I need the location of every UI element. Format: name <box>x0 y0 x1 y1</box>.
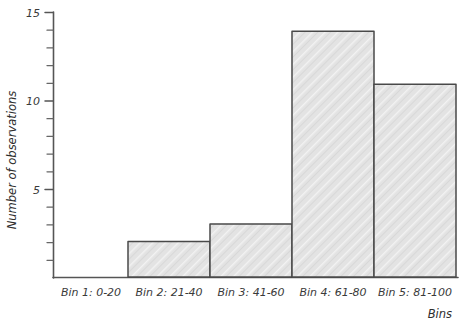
bar-bin-3 <box>210 224 292 277</box>
bar-bin-2 <box>128 242 210 277</box>
x-category-label-bin-5: Bin 5: 81-100 <box>378 286 452 299</box>
y-tick-label-15: 15 <box>26 7 40 20</box>
x-axis-title: Bins <box>428 307 452 321</box>
x-category-label-bin-1: Bin 1: 0-20 <box>61 286 121 299</box>
x-category-label-bin-2: Bin 2: 21-40 <box>135 286 202 299</box>
y-axis-title: Number of observations <box>5 91 19 230</box>
y-tick-label-5: 5 <box>33 184 40 197</box>
bar-bin-4 <box>292 31 374 277</box>
bar-bin-5 <box>374 84 456 277</box>
histogram-chart: 15 10 5 Bin 1: 0-20 Bin 2: 21-40 Bin 3: … <box>0 0 463 324</box>
x-category-label-bin-3: Bin 3: 41-60 <box>217 286 284 299</box>
x-category-label-bin-4: Bin 4: 61-80 <box>299 286 366 299</box>
histogram-svg: 15 10 5 Bin 1: 0-20 Bin 2: 21-40 Bin 3: … <box>0 0 463 324</box>
y-tick-label-10: 10 <box>26 95 40 108</box>
